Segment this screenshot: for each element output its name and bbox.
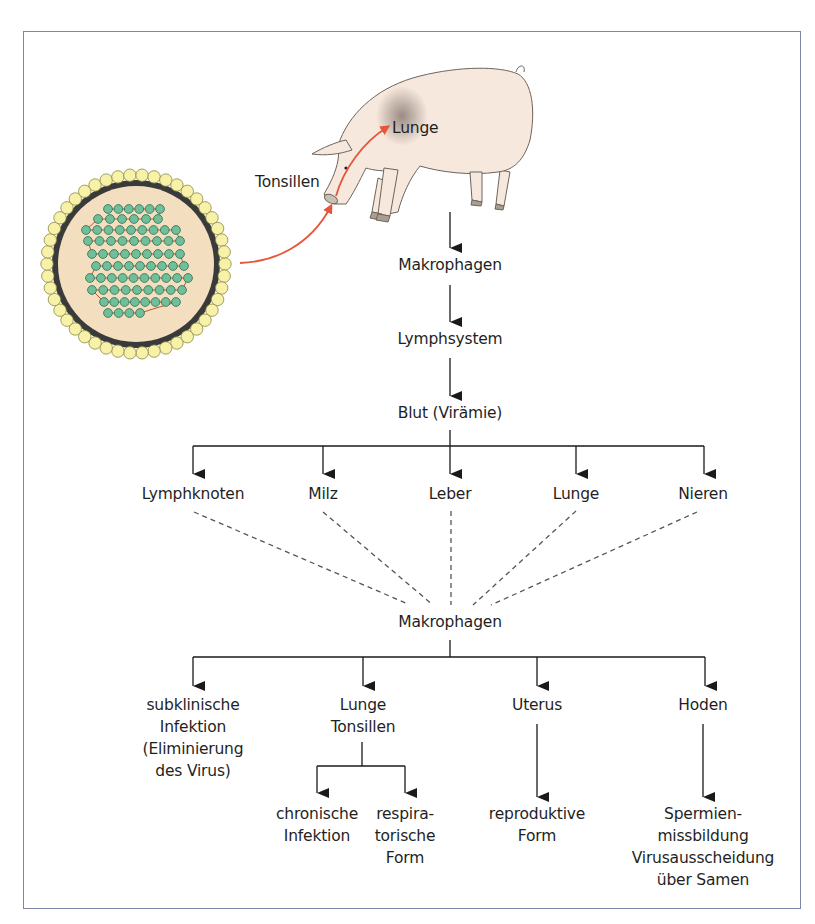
label-lunge-pig: Lunge [392, 117, 438, 139]
label-organ-milz: Milz [308, 483, 337, 505]
label-subklinische-infektion: subklinische Infektion (Eliminierung des… [143, 694, 244, 782]
label-blut-viraemie: Blut (Virämie) [398, 402, 502, 424]
label-lymphsystem: Lymphsystem [398, 328, 503, 350]
label-chronische-infektion: chronische Infektion [276, 803, 358, 847]
label-organ-nieren: Nieren [678, 483, 728, 505]
pig-icon [312, 66, 533, 222]
label-makrophagen-1: Makrophagen [398, 254, 502, 276]
dashed-convergence-lines [194, 511, 697, 605]
label-uterus: Uterus [512, 694, 562, 716]
label-organ-lunge: Lunge [553, 483, 599, 505]
label-organ-lymphknoten: Lymphknoten [142, 483, 245, 505]
label-organ-leber: Leber [429, 483, 472, 505]
label-lunge-tonsillen: Lunge Tonsillen [331, 694, 396, 738]
infection-arrow [240, 208, 330, 263]
label-reproduktive-form: reproduktive Form [489, 803, 585, 847]
label-respiratorische-form: respira- torische Form [375, 803, 436, 869]
label-makrophagen-2: Makrophagen [398, 611, 502, 633]
label-hoden: Hoden [678, 694, 727, 716]
label-tonsillen: Tonsillen [255, 171, 320, 193]
label-spermienmissbildung: Spermien- missbildung Virusausscheidung … [632, 803, 774, 891]
virus-particle-icon [41, 169, 231, 359]
